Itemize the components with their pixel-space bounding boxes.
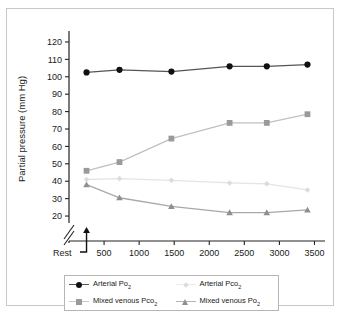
legend-label-arterial-po2: Arterial Po2 [93, 280, 131, 290]
legend-marker-square-icon [69, 298, 89, 306]
series-point-2-1 [117, 176, 123, 182]
series-point-0-4 [264, 63, 270, 69]
series-point-2-2 [169, 178, 175, 184]
series-point-0-2 [168, 68, 174, 74]
legend-label-mixed-venous-pco2: Mixed venous Pco2 [93, 297, 157, 307]
x-tick-label: 1500 [164, 248, 184, 258]
series-point-1-1 [117, 159, 123, 165]
series-point-0-0 [83, 69, 89, 75]
series-point-1-5 [305, 111, 311, 117]
x-tick-label: 500 [97, 248, 112, 258]
y-tick-label: 90 [52, 89, 62, 99]
series-point-1-3 [227, 120, 233, 126]
y-tick-label: 50 [52, 159, 62, 169]
legend-item-arterial-po2[interactable]: Arterial Po2 [65, 280, 172, 290]
y-axis-title: Partial pressure (mm Hg) [16, 76, 27, 182]
series-point-0-3 [227, 63, 233, 69]
legend-marker-diamond-icon [176, 281, 196, 289]
series-point-2-4 [264, 181, 270, 187]
series-point-1-2 [169, 136, 175, 142]
legend-item-mixed-venous-po2[interactable]: Mixed venous Po2 [172, 297, 279, 307]
y-tick-label: 100 [47, 72, 62, 82]
legend-item-arterial-pco2[interactable]: Arterial Pco2 [172, 280, 279, 290]
series-point-1-0 [84, 168, 90, 174]
series-point-0-5 [304, 61, 310, 67]
y-tick-label: 20 [52, 211, 62, 221]
legend-item-mixed-venous-pco2[interactable]: Mixed venous Pco2 [65, 297, 172, 307]
x-tick-label: 3000 [269, 248, 289, 258]
rest-label: Rest [53, 248, 72, 258]
rest-arrow-icon [83, 227, 90, 233]
chart-legend: Arterial Po2 Arterial Pco2 Mixed v [64, 275, 279, 311]
x-tick-label: 2000 [199, 248, 219, 258]
y-tick-label: 70 [52, 124, 62, 134]
y-tick-label: 30 [52, 194, 62, 204]
x-tick-label: 2500 [234, 248, 254, 258]
legend-marker-triangle-icon [176, 298, 196, 306]
y-tick-label: 80 [52, 107, 62, 117]
figure-panel: 2030405060708090100110120500100015002000… [6, 8, 334, 306]
series-point-1-4 [264, 120, 270, 126]
legend-marker-circle-icon [69, 281, 89, 289]
y-axis-break-mark-1 [64, 225, 74, 239]
series-point-0-1 [116, 67, 122, 73]
y-tick-label: 40 [52, 176, 62, 186]
y-tick-label: 60 [52, 142, 62, 152]
x-tick-label: 1000 [129, 248, 149, 258]
plot-area: 2030405060708090100110120500100015002000… [7, 9, 335, 259]
y-tick-label: 120 [47, 37, 62, 47]
y-tick-label: 110 [48, 55, 62, 65]
x-tick-label: 3500 [304, 248, 324, 258]
legend-label-mixed-venous-po2: Mixed venous Po2 [200, 297, 261, 307]
series-point-3-0 [83, 181, 90, 187]
legend-label-arterial-pco2: Arterial Pco2 [200, 280, 242, 290]
rest-connector-line [80, 232, 87, 252]
series-point-2-5 [305, 187, 311, 193]
line-chart: 2030405060708090100110120500100015002000… [7, 9, 335, 259]
series-point-2-3 [227, 180, 233, 186]
